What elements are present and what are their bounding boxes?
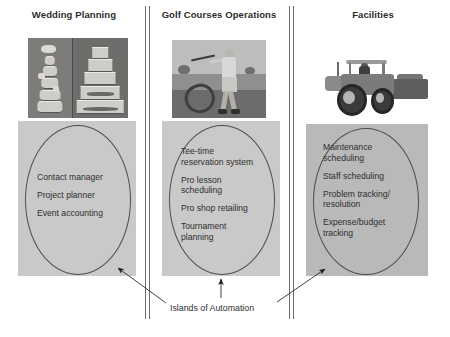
island-item: Tournamentplanning — [181, 221, 277, 242]
column-divider-2 — [289, 6, 294, 319]
island-items-facilities: MaintenanceschedulingStaff schedulingPro… — [323, 142, 423, 238]
cake-photo-right — [73, 38, 128, 118]
column-title-facilities: Facilities — [300, 9, 446, 20]
golfer-swinging-photo — [172, 40, 266, 118]
island-item: Maintenancescheduling — [323, 142, 423, 163]
island-item: Staff scheduling — [323, 171, 423, 182]
islands-of-automation-caption: Islands of Automation — [170, 303, 254, 313]
island-item: Pro lessonscheduling — [181, 175, 277, 196]
island-items-wedding-planning: Contact managerProject plannerEvent acco… — [37, 172, 129, 219]
column-divider-1 — [145, 6, 150, 319]
island-item: Expense/budgettracking — [323, 217, 423, 238]
island-item: Pro shop retailing — [181, 203, 277, 214]
wedding-cakes-photo — [28, 38, 128, 118]
island-items-golf-courses-operations: Tee-timereservation systemPro lessonsche… — [181, 146, 277, 242]
cake-photo-left — [28, 38, 73, 118]
tractor-mower-photo — [315, 40, 435, 118]
column-title-golf-courses-operations: Golf Courses Operations — [154, 9, 284, 20]
island-item: Project planner — [37, 190, 129, 201]
island-item: Problem tracking/resolution — [323, 189, 423, 210]
column-title-wedding-planning: Wedding Planning — [8, 9, 140, 20]
island-item: Event accounting — [37, 208, 129, 219]
island-item: Contact manager — [37, 172, 129, 183]
diagram-canvas: Wedding Planning Golf Courses Operations… — [0, 0, 450, 337]
island-item: Tee-timereservation system — [181, 146, 277, 167]
